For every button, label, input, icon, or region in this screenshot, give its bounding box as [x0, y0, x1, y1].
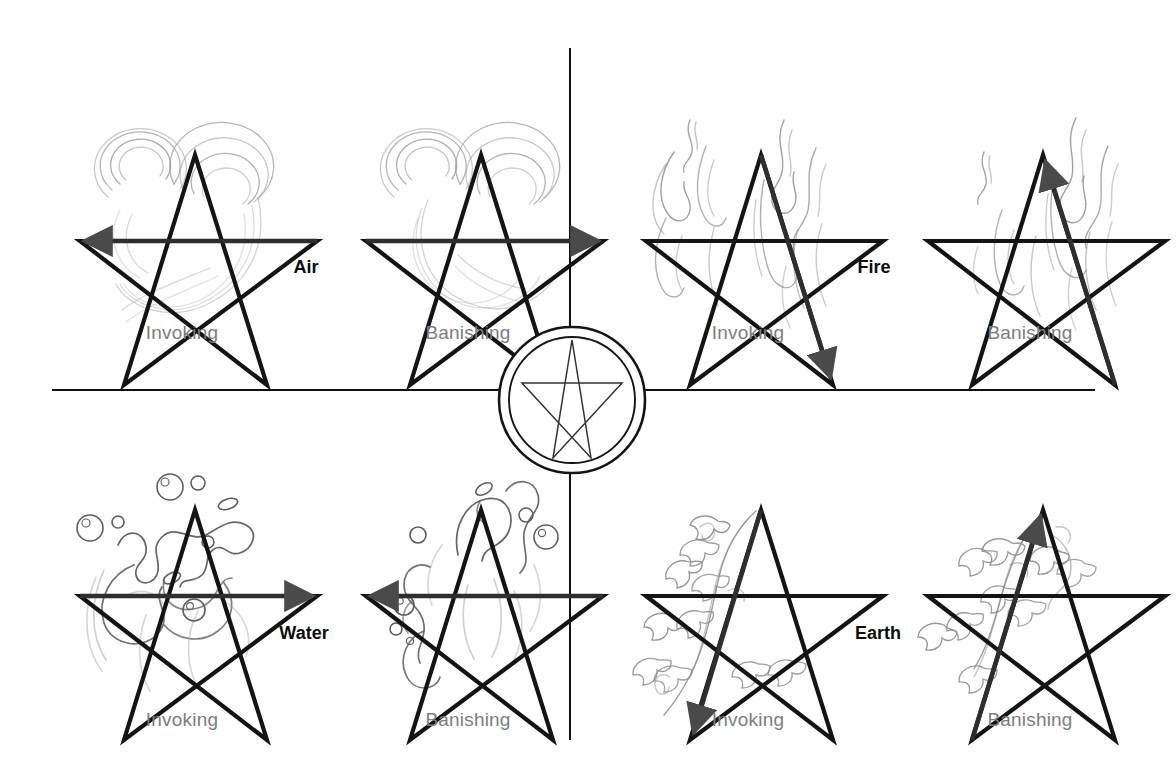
caption-earth-banishing: Banishing	[860, 709, 1176, 731]
quadrant-earth: Earth	[570, 390, 1145, 782]
caption-fire-banishing: Banishing	[860, 322, 1176, 344]
star-outline	[646, 155, 883, 385]
pentagram-earth-banishing	[860, 415, 1176, 715]
panel-fire-banishing[interactable]: Banishing	[860, 60, 1176, 360]
water-bubble-icon	[77, 474, 239, 621]
star-outline	[928, 155, 1165, 385]
star-outline	[80, 510, 317, 740]
quadrant-water: Water	[0, 390, 560, 782]
fire-flame-motif	[974, 118, 1119, 330]
star-outline	[646, 510, 883, 740]
pentagram-fire-banishing	[860, 60, 1176, 360]
pentacle-inner-circle	[509, 337, 635, 463]
star-outline	[80, 155, 317, 385]
stroke-arrow-fire-banishing	[1046, 163, 1115, 385]
center-pentacle-emblem[interactable]	[490, 318, 654, 482]
earth-ivy-motif	[633, 511, 806, 715]
panel-earth-banishing[interactable]: Banishing	[860, 415, 1176, 715]
stroke-arrow-earth-invoking	[694, 510, 761, 731]
air-swirl-motif	[380, 122, 559, 308]
star-outline	[366, 510, 603, 740]
star-outline	[928, 510, 1165, 740]
quadrant-air: Air	[0, 0, 560, 390]
quadrant-fire: Fire	[570, 0, 1145, 390]
